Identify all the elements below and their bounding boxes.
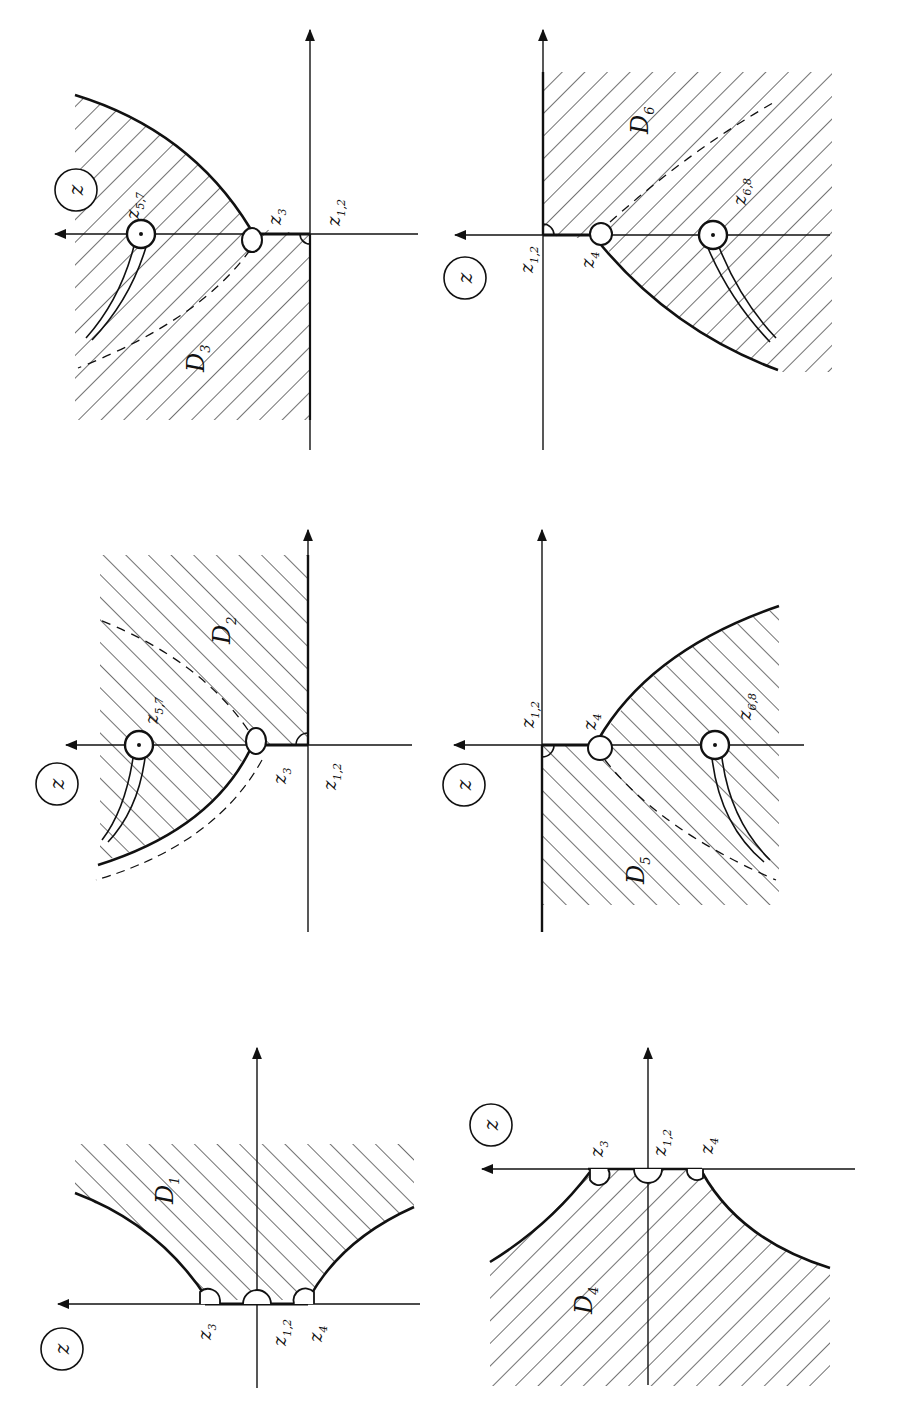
plane-label-z: z — [443, 764, 485, 806]
svg-text:z3: z3 — [586, 1141, 611, 1158]
plane-label-z: z — [36, 763, 78, 805]
svg-text:z: z — [45, 778, 69, 790]
panel-d3: z z5,7 z3 z1,2 D3 — [55, 30, 418, 450]
indent-z3 — [590, 1169, 610, 1185]
figure-canvas: z z5,7 z3 z1,2 D3 z z1,2 — [0, 0, 909, 1404]
svg-text:z3: z3 — [264, 209, 289, 226]
pole-dot — [713, 743, 717, 747]
svg-text:z: z — [50, 1343, 74, 1355]
svg-text:z1,2: z1,2 — [269, 1319, 294, 1347]
pole-dot — [139, 232, 143, 236]
label-z3: z3 — [194, 1324, 219, 1341]
panel-d4: z z3 z1,2 z4 D4 — [470, 1048, 855, 1386]
panel-d2: z z5,7 z3 z1,2 D2 — [36, 530, 412, 932]
svg-text:z: z — [453, 272, 477, 284]
svg-text:z: z — [64, 184, 88, 196]
label-z12: z1,2 — [649, 1129, 674, 1157]
svg-text:z1,2: z1,2 — [649, 1129, 674, 1157]
hatched-domain-d6 — [543, 72, 832, 372]
hatched-domain-d2 — [100, 555, 308, 862]
svg-text:z1,2: z1,2 — [516, 246, 541, 274]
svg-text:z3: z3 — [194, 1324, 219, 1341]
svg-text:z3: z3 — [269, 768, 294, 785]
panel-d1: z z3 z1,2 z4 D1 — [41, 1048, 420, 1388]
svg-text:z: z — [479, 1119, 503, 1131]
label-z12: z1,2 — [517, 701, 542, 729]
branch-point-z4 — [590, 223, 612, 245]
label-z3: z3 — [269, 768, 294, 785]
svg-text:z4: z4 — [696, 1138, 721, 1155]
plane-label-z: z — [444, 257, 486, 299]
branch-point-z4 — [588, 736, 612, 760]
label-z12: z1,2 — [323, 199, 348, 227]
hatched-domain-d5 — [542, 608, 779, 905]
hatched-domain-d1 — [75, 1144, 414, 1300]
svg-text:z: z — [452, 779, 476, 791]
branch-point-z3 — [246, 728, 266, 754]
svg-text:z4: z4 — [579, 714, 604, 731]
label-z4: z4 — [577, 252, 602, 269]
plane-label-z: z — [55, 169, 97, 211]
pole-dot — [137, 743, 141, 747]
label-z12: z1,2 — [269, 1319, 294, 1347]
svg-text:z1,2: z1,2 — [323, 199, 348, 227]
plane-label-z: z — [470, 1104, 512, 1146]
label-z4: z4 — [305, 1326, 330, 1343]
panel-d5: z z1,2 z4 z6,8 D5 — [443, 530, 804, 932]
svg-text:z4: z4 — [577, 252, 602, 269]
label-z4: z4 — [696, 1138, 721, 1155]
plane-label-z: z — [41, 1328, 83, 1370]
label-z3: z3 — [586, 1141, 611, 1158]
pole-dot — [711, 233, 715, 237]
svg-text:z1,2: z1,2 — [517, 701, 542, 729]
hatched-domain-d4 — [490, 1169, 830, 1386]
branch-point-z3 — [242, 228, 262, 252]
panel-d6: z z1,2 z4 z6,8 D6 — [444, 30, 832, 450]
label-z4: z4 — [579, 714, 604, 731]
label-z12: z1,2 — [319, 763, 344, 791]
svg-text:z4: z4 — [305, 1326, 330, 1343]
svg-text:z1,2: z1,2 — [319, 763, 344, 791]
label-z12: z1,2 — [516, 246, 541, 274]
label-z3: z3 — [264, 209, 289, 226]
